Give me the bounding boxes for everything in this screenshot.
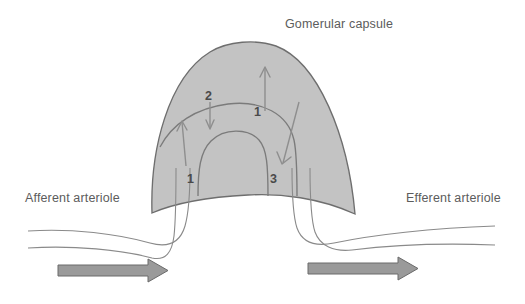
marker-2-upper-left: 2 — [205, 89, 212, 103]
capsule-label: Gomerular capsule — [285, 17, 393, 31]
efferent-arteriole-label: Efferent arteriole — [406, 191, 501, 205]
kidney-nephron-diagram: Gomerular capsule Afferent arteriole Eff… — [0, 0, 525, 304]
marker-3-right-lower: 3 — [270, 172, 277, 186]
marker-1-center: 1 — [254, 105, 261, 119]
block-arrow-efferent-blood-flow — [308, 257, 418, 280]
marker-1-left-lower: 1 — [187, 172, 194, 186]
afferent-arteriole-label: Afferent arteriole — [25, 191, 120, 205]
block-arrow-afferent-blood-flow — [58, 259, 168, 282]
diagram-canvas: Gomerular capsule Afferent arteriole Eff… — [0, 0, 525, 304]
